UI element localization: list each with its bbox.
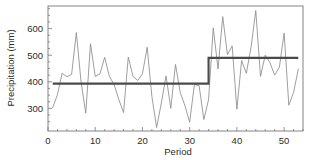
x-tick-label: 30 — [184, 135, 195, 146]
y-tick-label: 500 — [27, 50, 43, 61]
x-axis-title: Period — [164, 146, 191, 157]
x-tick-label: 50 — [279, 135, 290, 146]
precipitation-step-change-chart: 01020304050 300400500600 Period Precipit… — [0, 0, 313, 160]
x-tick-label: 0 — [45, 135, 50, 146]
y-axis-title: Precipitation (mm) — [5, 29, 16, 106]
y-tick-label: 300 — [27, 103, 43, 114]
y-tick-label: 400 — [27, 76, 43, 87]
chart-canvas: 01020304050 300400500600 Period Precipit… — [0, 0, 313, 160]
x-tick-label: 20 — [137, 135, 148, 146]
y-tick-label: 600 — [27, 23, 43, 34]
x-tick-label: 40 — [232, 135, 243, 146]
x-tick-label: 10 — [90, 135, 101, 146]
